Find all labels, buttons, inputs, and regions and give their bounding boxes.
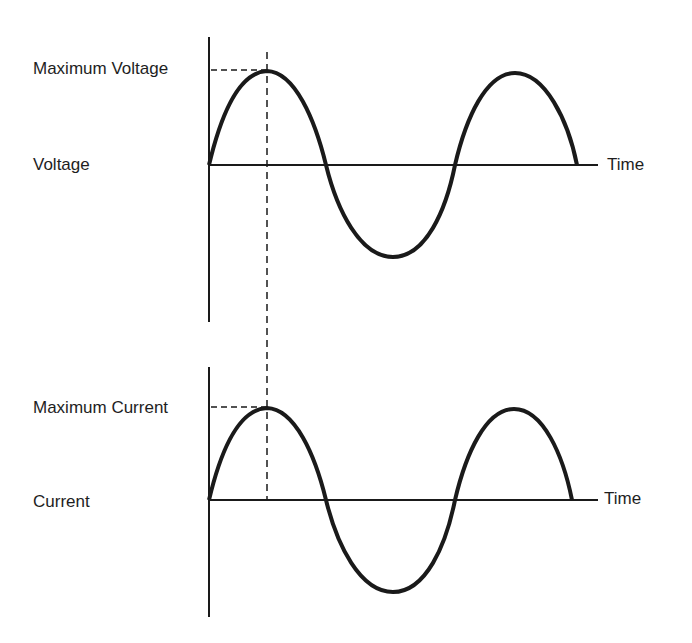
waveform-diagram	[0, 0, 692, 643]
